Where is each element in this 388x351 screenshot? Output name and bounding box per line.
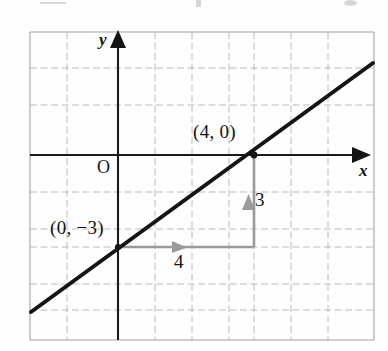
run-value-label: 4 bbox=[174, 252, 184, 271]
axis-y bbox=[110, 30, 126, 340]
y-intercept-point-label: (0, −3) bbox=[50, 218, 104, 237]
origin-label: O bbox=[97, 158, 110, 176]
y-axis-arrowhead bbox=[110, 30, 126, 48]
coordinate-graph: y x O (4, 0) (0, −3) 3 4 bbox=[0, 0, 388, 351]
plotted-line bbox=[31, 63, 373, 312]
point-marker-x-intercept bbox=[251, 152, 258, 159]
figure-page: y x O (4, 0) (0, −3) 3 4 bbox=[0, 0, 388, 351]
axis-x bbox=[30, 147, 371, 163]
graph-svg bbox=[0, 0, 388, 351]
point-marker-y-intercept bbox=[115, 244, 121, 250]
x-intercept-point-label: (4, 0) bbox=[193, 122, 236, 141]
y-axis-label: y bbox=[99, 31, 107, 48]
x-axis-label: x bbox=[359, 162, 368, 179]
rise-value-label: 3 bbox=[255, 190, 265, 209]
slope-triangle-markers bbox=[118, 157, 255, 253]
